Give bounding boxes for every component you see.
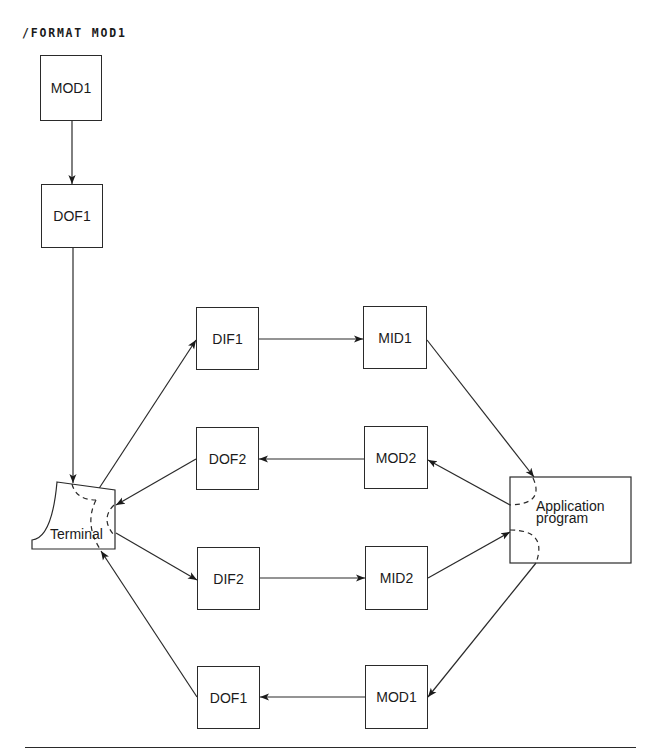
app-dashed-arc-lower — [510, 530, 539, 563]
application-program-label: Application program — [536, 500, 605, 524]
arrow-dof1-to-terminal-bottom — [101, 551, 197, 697]
box-label: MOD1 — [51, 80, 91, 96]
box-label: DOF2 — [209, 451, 246, 467]
box-dif1: DIF1 — [196, 307, 259, 370]
box-mod1-top: MOD1 — [40, 55, 102, 121]
box-label: DOF1 — [210, 690, 247, 706]
arrow-terminal-to-dif2 — [116, 533, 197, 580]
box-mid1: MID1 — [363, 306, 427, 369]
box-mod2: MOD2 — [364, 426, 428, 489]
arrow-mid2-to-app — [428, 532, 510, 578]
box-label: MOD1 — [376, 689, 416, 705]
box-dif2: DIF2 — [197, 547, 260, 610]
box-mod1-bottom: MOD1 — [365, 665, 428, 729]
box-label: MID2 — [380, 570, 413, 586]
box-dof2: DOF2 — [196, 427, 259, 490]
box-label: DOF1 — [53, 208, 90, 224]
arrow-app-to-mod2 — [428, 460, 510, 505]
box-label: MOD2 — [376, 450, 416, 466]
arrow-mid1-to-app — [427, 340, 534, 477]
arrow-dof2-to-terminal — [116, 459, 196, 505]
box-label: MID1 — [378, 330, 411, 346]
box-dof1-bottom: DOF1 — [197, 666, 260, 729]
box-label: DIF1 — [212, 331, 242, 347]
box-mid2: MID2 — [365, 546, 428, 610]
app-dashed-arc-upper — [510, 478, 536, 505]
bottom-rule — [25, 747, 636, 748]
terminal-label: Terminal — [50, 526, 103, 542]
box-dof1-top: DOF1 — [41, 184, 103, 248]
arrow-app-to-mod1 — [428, 563, 536, 697]
box-label: DIF2 — [213, 571, 243, 587]
